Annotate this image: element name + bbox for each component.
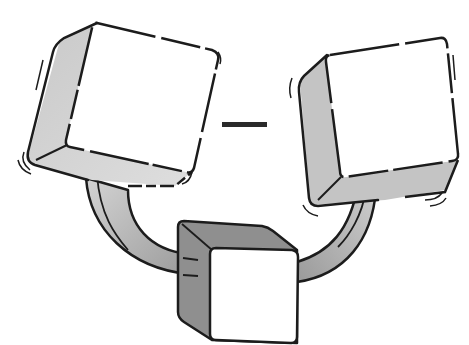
minus-sign [222,122,267,127]
left-cube [18,23,221,186]
bottom-cube [178,221,298,343]
cubes-illustration [0,0,469,345]
left-arm [86,175,188,274]
right-cube [290,38,458,216]
